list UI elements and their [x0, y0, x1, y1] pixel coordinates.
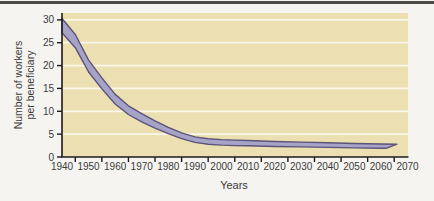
x-tick-label: 2070: [396, 161, 419, 172]
y-tick-label: 30: [43, 14, 55, 25]
y-axis-title-line2: per beneficiary: [24, 50, 36, 120]
figure: 1940195019601970198019902000201020202030…: [0, 0, 434, 201]
x-axis-title: Years: [220, 179, 248, 191]
x-tick-label: 2050: [343, 161, 366, 172]
y-tick-label: 10: [43, 106, 55, 117]
y-tick-label: 15: [43, 83, 55, 94]
x-tick-label: 1940: [51, 161, 74, 172]
y-tick-label: 20: [43, 60, 55, 71]
plot-area: 1940195019601970198019902000201020202030…: [43, 13, 419, 172]
x-tick-label: 1980: [157, 161, 180, 172]
x-tick-label: 2060: [370, 161, 393, 172]
x-tick-label: 2030: [290, 161, 313, 172]
x-tick-label: 1950: [77, 161, 100, 172]
x-tick-label: 2020: [263, 161, 286, 172]
y-tick-label: 0: [48, 152, 54, 163]
x-tick-label: 1990: [184, 161, 207, 172]
x-tick-label: 1960: [104, 161, 127, 172]
y-tick-label: 5: [48, 129, 54, 140]
x-tick-label: 2040: [317, 161, 340, 172]
y-axis-title-line1: Number of workers: [12, 41, 24, 130]
x-tick-label: 2010: [237, 161, 260, 172]
x-tick-label: 2000: [210, 161, 233, 172]
x-tick-label: 1970: [131, 161, 154, 172]
workers-per-beneficiary-chart: 1940195019601970198019902000201020202030…: [0, 0, 434, 201]
plot-background: [62, 13, 408, 157]
y-tick-label: 25: [43, 37, 55, 48]
